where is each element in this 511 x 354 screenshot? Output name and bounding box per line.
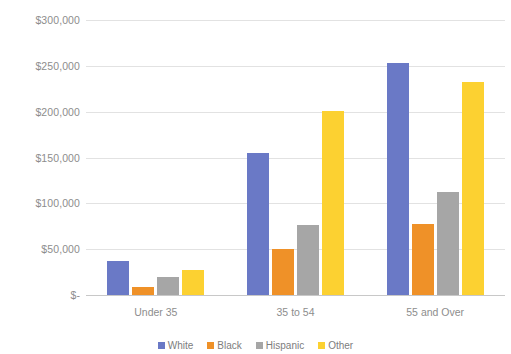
bars xyxy=(365,20,505,295)
bar-group xyxy=(86,20,226,295)
bar xyxy=(272,249,294,295)
x-axis: Under 3535 to 5455 and Over xyxy=(86,297,505,321)
legend-item[interactable]: Other xyxy=(318,340,353,351)
y-tick-label: $- xyxy=(70,289,80,301)
bars xyxy=(226,20,366,295)
x-category-label: 55 and Over xyxy=(365,297,505,321)
bar xyxy=(437,192,459,295)
legend-swatch-icon xyxy=(318,342,325,349)
bar xyxy=(387,63,409,295)
y-tick-label: $150,000 xyxy=(35,152,80,164)
bar xyxy=(322,111,344,295)
legend-label: Other xyxy=(328,340,353,351)
bar-chart: $-$50,000$100,000$150,000$200,000$250,00… xyxy=(0,0,511,354)
y-axis: $-$50,000$100,000$150,000$200,000$250,00… xyxy=(0,0,86,300)
legend-label: Black xyxy=(217,340,241,351)
bar xyxy=(412,224,434,296)
x-axis-line xyxy=(86,295,505,296)
y-tick-label: $250,000 xyxy=(35,60,80,72)
x-category-label: 35 to 54 xyxy=(226,297,366,321)
bar xyxy=(157,277,179,295)
y-tick-label: $200,000 xyxy=(35,106,80,118)
plot-area xyxy=(86,20,505,295)
bar xyxy=(107,261,129,295)
y-tick-label: $100,000 xyxy=(35,197,80,209)
legend-swatch-icon xyxy=(158,342,165,349)
legend-item[interactable]: Hispanic xyxy=(256,340,304,351)
bar-group xyxy=(365,20,505,295)
legend-label: White xyxy=(168,340,194,351)
legend-item[interactable]: Black xyxy=(207,340,241,351)
bar xyxy=(462,82,484,295)
bar xyxy=(247,153,269,295)
bar xyxy=(297,225,319,295)
bar xyxy=(182,270,204,295)
bar-group xyxy=(226,20,366,295)
legend: WhiteBlackHispanicOther xyxy=(0,336,511,354)
y-tick-label: $300,000 xyxy=(35,14,80,26)
bar xyxy=(132,287,154,295)
bars xyxy=(86,20,226,295)
legend-swatch-icon xyxy=(256,342,263,349)
x-category-label: Under 35 xyxy=(86,297,226,321)
legend-label: Hispanic xyxy=(266,340,304,351)
y-tick-label: $50,000 xyxy=(41,243,80,255)
bar-groups xyxy=(86,20,505,295)
legend-item[interactable]: White xyxy=(158,340,194,351)
legend-swatch-icon xyxy=(207,342,214,349)
